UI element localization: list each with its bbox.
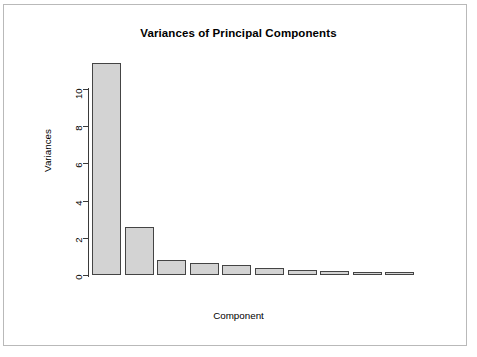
bar-component-3 [157, 260, 186, 275]
figure-canvas: Variances of Principal Components 024681… [0, 0, 477, 357]
y-axis-tick-mark [83, 275, 88, 276]
bar-component-7 [288, 270, 317, 275]
bar-component-6 [255, 268, 284, 275]
y-axis-tick-mark [83, 89, 88, 90]
bar-component-1 [92, 63, 121, 275]
x-axis-title: Component [0, 310, 477, 321]
y-axis-tick-label: 4 [73, 200, 84, 222]
y-axis-line [88, 88, 89, 277]
bar-component-5 [222, 265, 251, 275]
y-axis-tick-label: 0 [73, 275, 84, 297]
y-axis-tick-mark [83, 201, 88, 202]
bar-component-9 [353, 272, 382, 275]
bar-component-4 [190, 263, 219, 275]
y-axis-title: Variances [42, 129, 53, 172]
bar-component-2 [125, 227, 154, 275]
bar-component-10 [385, 272, 414, 275]
y-axis-tick-mark [83, 163, 88, 164]
y-axis-tick-label: 8 [73, 126, 84, 148]
page-title: Variances of Principal Components [0, 27, 477, 39]
y-axis-tick-label: 10 [73, 89, 84, 111]
bar-component-8 [320, 271, 349, 275]
y-axis-tick-mark [83, 126, 88, 127]
y-axis-tick-label: 2 [73, 237, 84, 259]
y-axis-tick-mark [83, 238, 88, 239]
y-axis-tick-label: 6 [73, 163, 84, 185]
